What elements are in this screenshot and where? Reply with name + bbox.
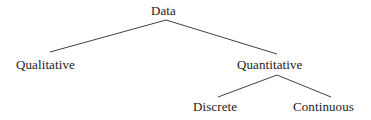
- tree-node-data: Data: [151, 3, 176, 18]
- tree-node-qualitative: Qualitative: [16, 57, 75, 72]
- tree-node-continuous: Continuous: [293, 99, 354, 114]
- edge-data-to-quantitative: [166, 20, 277, 54]
- edge-data-to-qualitative: [50, 20, 166, 52]
- tree-node-discrete: Discrete: [193, 99, 237, 114]
- data-classification-tree: Data Qualitative Quantitative Discrete C…: [0, 0, 371, 120]
- edge-quantitative-to-continuous: [277, 75, 331, 97]
- tree-node-quantitative: Quantitative: [237, 57, 302, 72]
- edge-quantitative-to-discrete: [218, 75, 277, 97]
